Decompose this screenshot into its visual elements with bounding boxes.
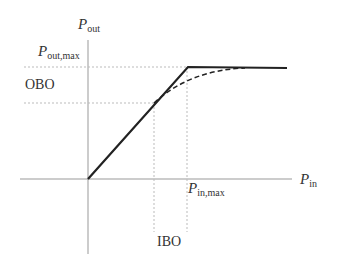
ibo-label: IBO <box>157 234 181 250</box>
pout-max-label: Pout,max <box>38 43 80 60</box>
x-axis-label: Pin <box>300 171 317 188</box>
pin-max-label: Pin,max <box>188 180 225 197</box>
y-axis-label: Pout <box>78 16 100 33</box>
real-amplifier-curve <box>154 68 245 103</box>
obo-label: OBO <box>25 77 55 93</box>
